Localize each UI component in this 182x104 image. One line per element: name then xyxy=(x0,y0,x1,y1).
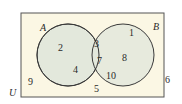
element-b-only: 8 xyxy=(122,52,127,63)
element-b-only: 1 xyxy=(129,27,134,38)
element-outside: 6 xyxy=(165,74,170,85)
universe-label: U xyxy=(9,87,17,98)
element-a-and-b: 3 xyxy=(94,38,99,49)
element-a-only: 2 xyxy=(58,42,63,53)
set-b-label: B xyxy=(153,21,159,32)
venn-diagram: A B U 2 4 3 7 1 8 10 9 5 6 xyxy=(0,0,182,104)
element-a-and-b: 7 xyxy=(97,55,102,66)
element-outside: 9 xyxy=(28,76,33,87)
set-a-label: A xyxy=(39,22,47,33)
element-a-only: 4 xyxy=(73,64,78,75)
element-outside: 5 xyxy=(94,83,99,94)
element-b-only: 10 xyxy=(106,70,116,81)
